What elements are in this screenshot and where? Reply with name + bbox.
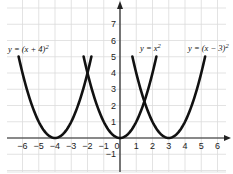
curve-equation-label: y = x2 <box>139 42 162 53</box>
y-tick-label: 6 <box>111 36 116 46</box>
y-tick-label: 2 <box>111 101 116 111</box>
x-tick-label: 5 <box>199 141 204 151</box>
y-tick-label: 3 <box>111 84 116 94</box>
curve-equation-label: y = (x − 3)2 <box>187 42 229 53</box>
x-axis-arrow-icon <box>224 135 231 141</box>
x-tick-label: 1 <box>134 141 139 151</box>
y-axis-arrow-icon <box>117 1 123 9</box>
x-tick-label: 2 <box>150 141 155 151</box>
x-tick-label: −4 <box>50 141 60 151</box>
y-tick-label: 5 <box>111 52 116 62</box>
y-tick-label: 7 <box>111 19 116 29</box>
y-tick-label: −1 <box>106 149 116 159</box>
x-tick-label: 6 <box>215 141 220 151</box>
curve-labels: y = (x + 4)2y = x2y = (x − 3)2 <box>7 42 229 54</box>
y-tick-label: 4 <box>111 68 116 78</box>
x-tick-label: −2 <box>82 141 92 151</box>
curve-equation-label: y = (x + 4)2 <box>7 43 49 54</box>
x-tick-label: −5 <box>34 141 44 151</box>
x-tick-label: −6 <box>17 141 27 151</box>
x-tick-label: 3 <box>166 141 171 151</box>
x-tick-label: −3 <box>66 141 76 151</box>
x-tick-label: 4 <box>182 141 187 151</box>
parabola-chart: −6−5−4−3−2−10123456−11234567 y = (x + 4)… <box>0 0 233 174</box>
y-tick-label: 1 <box>111 117 116 127</box>
